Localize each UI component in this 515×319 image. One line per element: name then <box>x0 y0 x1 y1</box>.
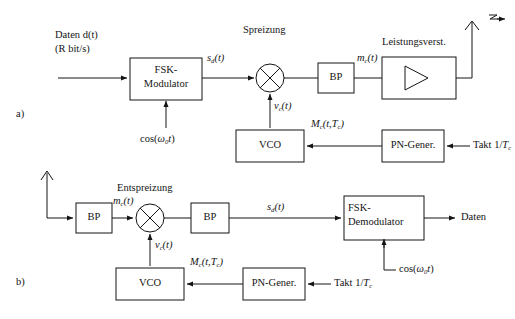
label-carrier-b: cos(ω0t) <box>399 263 434 276</box>
amplifier-triangle-icon <box>405 66 428 90</box>
block-label-bandpass-a: BP <box>318 71 354 84</box>
label-amplifier-title: Leistungsverst. <box>382 36 446 48</box>
label-data-input-line2: (R bit/s) <box>55 43 90 55</box>
block-label-fsk-modulator-line1: FSK- <box>130 64 202 77</box>
label-pn-code-b: Mc(t,Tc) <box>190 256 223 269</box>
block-label-pn-generator-a: PN-Gener. <box>382 139 444 152</box>
block-label-bandpass-input-b: BP <box>76 211 112 224</box>
label-carrier-a: cos(ω0t) <box>140 133 175 146</box>
block-label-vco-b: VCO <box>116 277 184 290</box>
label-section-entspreizung: Entspreizung <box>117 182 172 194</box>
label-signal-antenna-out-b: mc(t) <box>113 195 133 208</box>
label-clock-b: Takt 1/Tc <box>334 277 372 290</box>
label-signal-bandpass-out-a: mc(t) <box>357 52 377 65</box>
receive-antenna-icon <box>41 171 53 218</box>
label-clock-a: Takt 1/Tc <box>473 139 511 152</box>
label-signal-mixer-lo-a: vc(t) <box>274 100 292 113</box>
block-label-fsk-modulator-line2: Modulator <box>130 78 202 91</box>
label-signal-despread-out-b: sd(t) <box>267 201 284 214</box>
label-signal-modulator-out-a: sd(t) <box>207 52 224 65</box>
block-label-pn-generator-b: PN-Gener. <box>243 277 305 290</box>
label-data-output-b: Daten <box>461 211 486 223</box>
radiation-wave-icon <box>489 15 505 19</box>
mixer-multiplier-icon-a[interactable] <box>256 64 284 92</box>
block-label-bandpass-mid-b: BP <box>191 211 229 224</box>
label-data-input-line1: Daten d(t) <box>55 29 98 41</box>
block-label-vco-a: VCO <box>236 139 304 152</box>
panel-label-a: a) <box>16 108 24 119</box>
panel-label-b: b) <box>16 276 25 287</box>
mixer-multiplier-icon-b[interactable] <box>136 204 164 232</box>
label-pn-code-a: Mc(t,Tc) <box>311 118 344 131</box>
label-section-spreizung: Spreizung <box>243 24 286 36</box>
label-signal-mixer-lo-b: vc(t) <box>155 239 173 252</box>
transmit-antenna-icon <box>465 21 479 33</box>
block-label-fsk-demodulator-line1: FSK- <box>348 202 424 215</box>
block-label-fsk-demodulator-line2: Demodulator <box>348 216 424 229</box>
block-power-amplifier[interactable] <box>382 57 456 99</box>
